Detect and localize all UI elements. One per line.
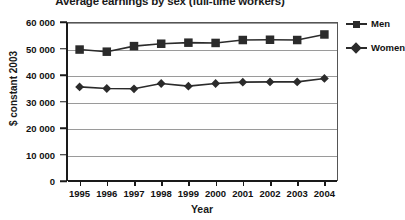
x-tick-mark [324, 181, 326, 186]
legend-swatch-diamond-icon [346, 43, 367, 53]
chart-title: Average earnings by sex (full-time worke… [0, 0, 340, 7]
y-tick-mark [60, 127, 67, 129]
y-tick-mark [60, 21, 67, 23]
legend-swatch-square-icon [346, 19, 367, 29]
x-tick-mark [134, 181, 136, 186]
x-tick-mark [107, 181, 109, 186]
y-tick-label: 10 000 [0, 149, 55, 160]
legend-item-women[interactable]: Women [346, 40, 405, 55]
y-tick-mark [60, 48, 67, 50]
y-tick-label: 50 000 [0, 43, 55, 54]
x-tick-mark [243, 181, 245, 186]
y-tick-label: 40 000 [0, 70, 55, 81]
legend-label-men: Men [371, 18, 390, 29]
y-tick-label: 30 000 [0, 96, 55, 107]
x-tick-label: 2004 [304, 188, 344, 199]
gridline [68, 76, 337, 77]
x-tick-mark [161, 181, 163, 186]
legend-label-women: Women [371, 42, 405, 53]
y-tick-mark [60, 180, 67, 182]
y-tick-label: 60 000 [0, 17, 55, 28]
x-axis-label: Year [66, 203, 338, 215]
legend: Men Women [346, 16, 405, 64]
y-tick-label: 0 [0, 176, 55, 187]
y-tick-mark [60, 154, 67, 156]
x-tick-mark [80, 181, 82, 186]
x-tick-mark [188, 181, 190, 186]
gridline [68, 50, 337, 51]
x-tick-mark [270, 181, 272, 186]
y-tick-mark [60, 74, 67, 76]
legend-item-men[interactable]: Men [346, 16, 405, 31]
y-tick-label: 20 000 [0, 123, 55, 134]
x-tick-mark [297, 181, 299, 186]
gridline [68, 103, 337, 104]
gridline [68, 156, 337, 157]
y-tick-mark [60, 101, 67, 103]
gridline [68, 129, 337, 130]
x-tick-mark [216, 181, 218, 186]
plot-area [66, 22, 338, 181]
gridline [68, 23, 337, 24]
